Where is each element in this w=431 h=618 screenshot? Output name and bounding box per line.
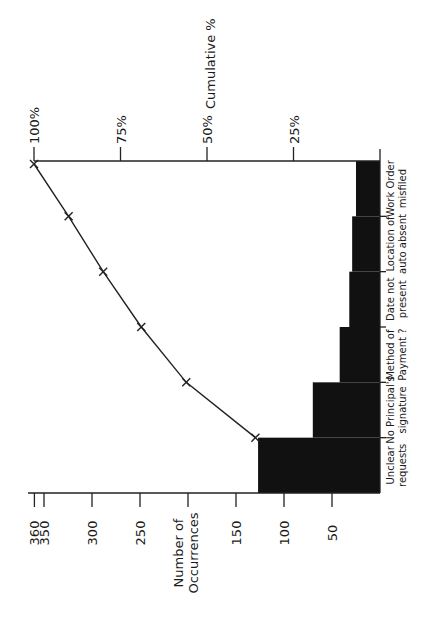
occurrences-tick-label: 250 [133,521,148,546]
occurrences-tick-label: 150 [229,521,244,546]
bar [356,161,380,216]
pareto-chart: 50100150250300350360Number ofOccurrences… [0,0,431,618]
cumulative-line [34,164,255,438]
bar [352,216,380,271]
category-label: Date notpresent [385,278,408,322]
cumulative-tick-label: 50% [200,115,215,144]
bar [313,382,380,437]
bars-group [258,161,380,493]
bar [258,438,380,493]
cumulative-tick-label: 25% [287,115,302,144]
bar [349,272,380,327]
bar [340,327,380,382]
occurrences-tick-label: 300 [85,521,100,546]
category-label: No Principal'ssignature [385,376,408,443]
category-label: Unclearrequests [385,444,408,487]
cumulative-axis-label: Cumulative % [203,18,218,109]
cumulative-tick-label: 75% [114,115,129,144]
category-label: Work Ordermisfiled [385,159,408,217]
category-label: Location ofauto absent [385,214,408,274]
occurrences-tick-label: 100 [277,521,292,546]
occurrences-axis-label: Number ofOccurrences [171,512,201,593]
occurrences-tick-label: 360 [27,521,42,546]
cumulative-tick-label: 100% [27,107,42,144]
cumulative-line-group [30,160,259,442]
occurrences-tick-label: 50 [325,525,340,542]
category-label: Method ofPayment ? [385,329,408,381]
